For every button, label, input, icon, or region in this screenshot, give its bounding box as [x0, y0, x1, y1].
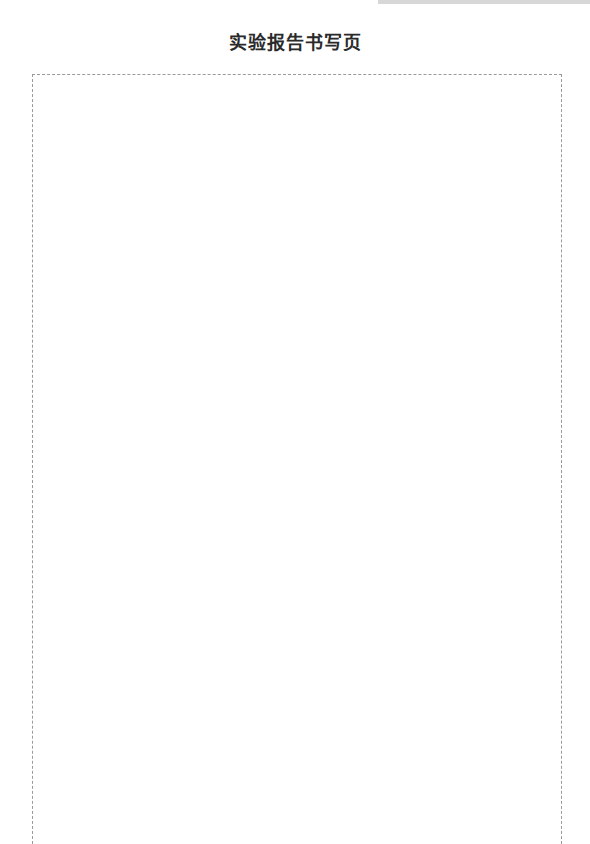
writing-area [32, 74, 562, 844]
header-strip [378, 0, 590, 4]
page-title: 实验报告书写页 [0, 30, 590, 56]
